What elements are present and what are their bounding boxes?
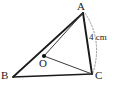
point-label-o: O bbox=[39, 58, 47, 69]
vertex-label-a: A bbox=[77, 1, 85, 12]
segment-ao bbox=[44, 13, 83, 56]
segment-oc bbox=[44, 56, 92, 74]
segment-bc bbox=[13, 74, 92, 77]
geometry-figure: A B C O 4 cm bbox=[0, 0, 119, 99]
vertex-label-b: B bbox=[1, 70, 8, 81]
vertex-label-c: C bbox=[95, 70, 102, 81]
segment-ab bbox=[13, 13, 83, 77]
measurement-label: 4 cm bbox=[89, 33, 107, 42]
geometry-canvas bbox=[0, 0, 119, 99]
